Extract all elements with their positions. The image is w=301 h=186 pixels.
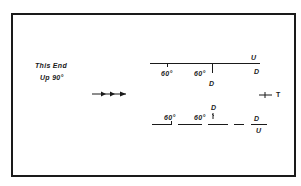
lower-d-frac-top: D [254, 115, 259, 123]
lower-angle-1: 60° [164, 114, 176, 122]
lower-u-frac-bottom: U [256, 127, 261, 135]
upper-d-right: D [254, 68, 259, 76]
lower-angle-2: 60° [194, 114, 206, 122]
lower-beam-seg-2 [178, 124, 202, 125]
lower-d-above: D [211, 104, 216, 112]
arrow-right-triple-icon [0, 0, 301, 186]
upper-u: U [251, 54, 256, 62]
lower-beam-seg-3 [208, 124, 228, 125]
upper-d-below: D [209, 80, 214, 88]
upper-tick-1 [167, 63, 168, 67]
lower-beam-seg-1 [152, 124, 172, 125]
lower-beam-seg-5 [251, 124, 267, 125]
lower-beam-seg-4 [234, 124, 244, 125]
tee-label: T [276, 91, 281, 99]
upper-tick-2 [212, 63, 213, 73]
upper-angle-2: 60° [194, 70, 206, 78]
upper-angle-1: 60° [161, 70, 173, 78]
